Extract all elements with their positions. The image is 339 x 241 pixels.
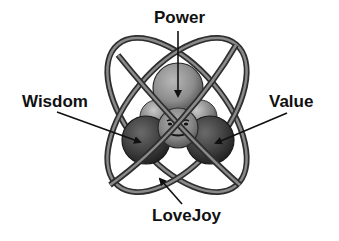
label-lovejoy: LoveJoy [152,207,221,224]
label-value: Value [269,93,313,110]
atom-graphic [0,0,339,241]
atom-diagram: Power Wisdom Value LoveJoy [0,0,339,241]
label-wisdom: Wisdom [22,93,88,110]
label-power: Power [154,9,205,26]
